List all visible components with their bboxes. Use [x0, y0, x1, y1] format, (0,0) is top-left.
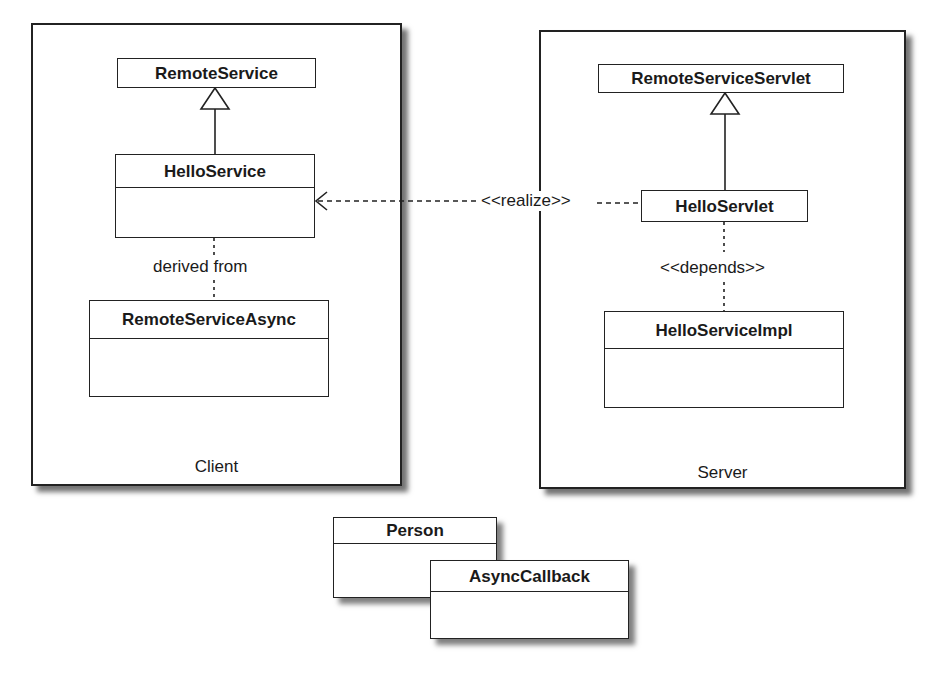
class-name: AsyncCallback — [431, 561, 628, 592]
realize-label: <<realize>> — [478, 191, 574, 211]
generalization-arrow-icon — [711, 93, 739, 114]
class-name: HelloServlet — [642, 191, 807, 221]
generalization-arrow-icon — [201, 88, 229, 109]
class-async-callback: AsyncCallback — [430, 560, 629, 639]
class-remote-service-async: RemoteServiceAsync — [89, 300, 329, 397]
class-remote-service: RemoteService — [117, 58, 316, 88]
class-hello-service-impl: HelloServiceImpl — [604, 311, 844, 408]
depends-label: <<depends>> — [657, 258, 768, 278]
class-name: RemoteServiceServlet — [599, 65, 843, 92]
class-name: RemoteService — [118, 59, 315, 87]
class-name: HelloService — [116, 155, 314, 188]
class-name: RemoteServiceAsync — [90, 301, 328, 339]
class-hello-servlet: HelloServlet — [641, 190, 808, 222]
class-name: Person — [334, 518, 496, 544]
class-remote-service-servlet: RemoteServiceServlet — [598, 64, 844, 93]
derived-from-label: derived from — [150, 257, 250, 277]
class-name: HelloServiceImpl — [605, 312, 843, 349]
class-hello-service: HelloService — [115, 154, 315, 238]
